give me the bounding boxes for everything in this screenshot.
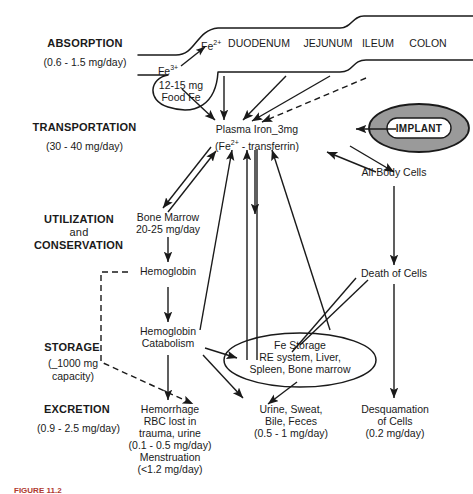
hemorrhage-line2: RBC lost in <box>118 416 222 428</box>
gut-segment-ileum: ILEUM <box>356 38 400 50</box>
gut-segment-colon: COLON <box>404 38 452 50</box>
plasma-iron-label: Plasma Iron_3mg <box>187 124 327 136</box>
stage-sub-absorption: (0.6 - 1.5 mg/day) <box>10 57 160 69</box>
hemorrhage-line3: trauma, urine <box>118 428 222 440</box>
fe-storage-line1: Fe Storage <box>240 340 360 352</box>
stage-sub-storage-1: (_1000 mg <box>18 358 128 370</box>
urine-line3: (0.5 - 1 mg/day) <box>232 428 350 440</box>
gut-segment-jejunum: JEJUNUM <box>298 38 358 50</box>
stomach-food-iron-line1: 12-15 mg <box>145 80 217 92</box>
plasma-bone-marrow-exchange <box>163 147 216 212</box>
stage-label-transportation: TRANSPORTATION <box>12 122 157 134</box>
desquamation-line2: of Cells <box>336 416 454 428</box>
hemorrhage-line1: Hemorrhage <box>118 404 222 416</box>
hemoglobin-catabolism-line2: Catabolism <box>118 338 218 350</box>
implant-label: IMPLANT <box>387 123 451 135</box>
urine-line2: Bile, Feces <box>236 416 346 428</box>
hemorrhage-line4: (0.1 - 0.5 mg/day) <box>110 440 230 452</box>
fe-storage-line2: RE system, Liver, <box>228 352 372 364</box>
fe2-absorption-label: Fe2+ <box>201 37 221 52</box>
desquamation-line3: (0.2 mg/day) <box>336 428 454 440</box>
storage-right-to-plasma-arrow <box>272 150 330 330</box>
bone-marrow-label: Bone Marrow <box>112 212 224 224</box>
stage-label-absorption: ABSORPTION <box>20 38 150 50</box>
plasma-iron-transferrin-label: (Fe2+ - transferrin) <box>187 137 327 152</box>
fe-storage-line3: Spleen, Bone marrow <box>224 364 376 376</box>
figure-caption: FIGURE 11.2 <box>14 486 62 494</box>
gut-segment-duodenum: DUODENUM <box>222 38 296 50</box>
return-arrows-to-plasma <box>200 150 330 360</box>
stage-label-conservation: CONSERVATION <box>6 240 151 252</box>
iron-metabolism-diagram: ABSORPTION (0.6 - 1.5 mg/day) TRANSPORTA… <box>0 0 473 494</box>
stage-sub-storage-2: capacity) <box>18 371 128 383</box>
hemorrhage-line6: (<1.2 mg/day) <box>118 464 222 476</box>
stage-label-storage: STORAGE <box>12 342 132 354</box>
catabolism-to-plasma-arrow <box>200 150 232 330</box>
hemoglobin-label: Hemoglobin <box>118 266 218 278</box>
bone-marrow-rate: 20-25 mg/day <box>112 224 224 236</box>
hemoglobin-catabolism-line1: Hemoglobin <box>118 326 218 338</box>
stage-sub-transportation: (30 - 40 mg/day) <box>12 141 157 153</box>
hemorrhage-line5: Menstruation <box>118 452 222 464</box>
all-body-cells-label: All Body Cells <box>334 167 454 179</box>
urine-line1: Urine, Sweat, <box>236 404 346 416</box>
desquamation-line1: Desquamation <box>336 404 454 416</box>
stomach-food-iron-line2: Food Fe <box>145 92 217 104</box>
fe3-label: Fe3+ <box>150 62 186 77</box>
death-of-cells-label: Death of Cells <box>338 268 450 280</box>
